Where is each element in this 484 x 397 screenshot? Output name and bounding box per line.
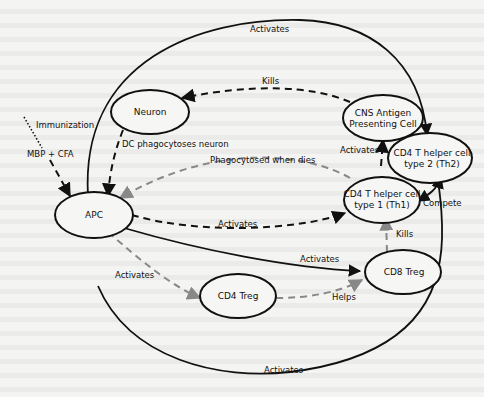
label-mbp-cfa: MBP + CFA <box>27 149 74 159</box>
label-activates-th1: Activates <box>218 219 258 229</box>
label-kills-th1: Kills <box>396 229 414 239</box>
edge-mbp-cfa <box>50 160 70 196</box>
node-cns-apc-label-2: Presenting Cell <box>349 119 416 129</box>
label-dc-phagocytoses: DC phagocytoses neuron <box>122 139 229 149</box>
node-cd8-treg: CD8 Treg <box>365 250 441 294</box>
node-th2-label-2: type 2 (Th2) <box>404 159 460 169</box>
node-th1-label-1: CD4 T helper cell <box>343 189 420 199</box>
node-th2: CD4 T helper cell type 2 (Th2) <box>388 133 472 183</box>
node-th1-label-2: type 1 (Th1) <box>354 200 410 210</box>
edge-apc-activates-cd8 <box>124 228 360 271</box>
label-phagocytosed-when-dies: Phagocytosed when dies <box>210 155 316 165</box>
label-kills-neuron: Kills <box>262 76 280 86</box>
label-activates-cd4treg: Activates <box>115 270 155 280</box>
node-cd4-treg-label: CD4 Treg <box>218 291 259 301</box>
node-th2-label-1: CD4 T helper cell <box>393 148 470 158</box>
edge-cns-apc-kills-neuron <box>182 88 350 102</box>
label-activates-cd8: Activates <box>300 254 340 264</box>
node-cns-apc-label-1: CNS Antigen <box>355 108 411 118</box>
label-activates-cns-apc: Activates <box>340 145 380 155</box>
edge-dc-phagocytoses-neuron <box>108 130 123 196</box>
node-neuron-label: Neuron <box>134 107 167 117</box>
edge-th1-activates-cns-apc <box>381 140 383 166</box>
label-activates-top: Activates <box>250 24 290 34</box>
node-cd8-treg-label: CD8 Treg <box>384 267 425 277</box>
node-apc: APC <box>55 192 133 238</box>
node-cd4-treg: CD4 Treg <box>200 274 276 318</box>
node-neuron: Neuron <box>111 90 189 134</box>
label-activates-bottom: Activates <box>264 365 304 375</box>
edge-apc-activates-cd4treg <box>108 232 200 298</box>
label-immunization: Immunization <box>36 120 94 130</box>
node-apc-label: APC <box>85 210 103 220</box>
node-cns-apc: CNS Antigen Presenting Cell <box>343 95 423 141</box>
node-th1: CD4 T helper cell type 1 (Th1) <box>343 177 420 223</box>
label-helps: Helps <box>332 292 356 302</box>
immune-network-diagram: Neuron CNS Antigen Presenting Cell CD4 T… <box>0 0 484 397</box>
label-compete: Compete <box>423 198 462 208</box>
